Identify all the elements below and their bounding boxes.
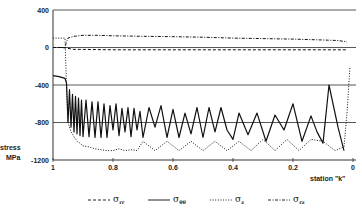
legend: σrrσθθσzσrz [88,194,305,205]
y-axis-label-line2: MPa [6,154,21,161]
x-tick-label: 0 [351,164,355,171]
legend-label: σz [235,194,244,205]
stress-chart: 4000-400-800-1200 10.80.60.40.20 stress … [0,0,362,210]
x-tick-label: 0.4 [228,164,238,171]
x-tick-label: 0.6 [168,164,178,171]
y-axis-label-line1: stress [0,144,21,151]
y-tick-label: -400 [35,82,49,89]
x-tick-label: 0.8 [108,164,118,171]
x-tick-label: 1 [51,164,55,171]
y-tick-label: -1200 [31,157,49,164]
series-line-dotted [53,38,350,151]
legend-label: σθθ [173,194,186,205]
series-line-dash-dot [53,35,347,47]
y-tick-label: -800 [35,119,49,126]
y-tick-label: 0 [45,44,49,51]
x-tick-labels: 10.80.60.40.20 [51,164,355,171]
legend-label: σrz [293,194,305,205]
data-series [53,35,350,150]
x-axis-label: station "k" [310,175,345,182]
axes [53,10,356,162]
x-tick-label: 0.2 [288,164,298,171]
legend-label: σrr [113,194,125,205]
y-tick-label: 400 [37,7,49,14]
series-line-solid [53,76,344,151]
y-tick-labels: 4000-400-800-1200 [31,7,49,164]
